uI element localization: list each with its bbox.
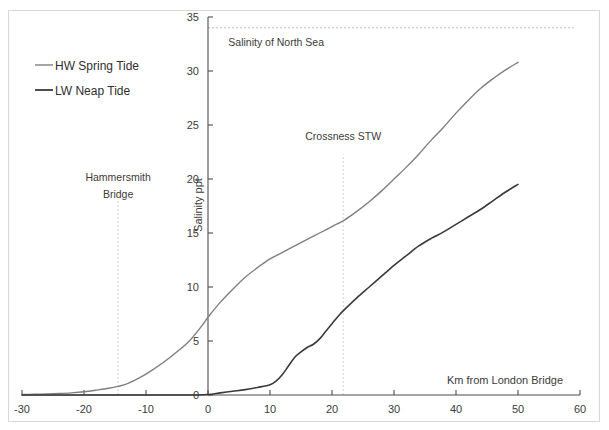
y-tick-label: 10 — [187, 281, 199, 293]
series-layer — [22, 62, 518, 395]
annotation-label-salinity-of-north-sea: Salinity of North Sea — [228, 36, 324, 48]
y-axis-title: Salinity ppt — [192, 178, 204, 232]
annotation-label-hammersmith-bridge-line2: Bridge — [103, 188, 134, 200]
x-tick-label: 10 — [264, 403, 276, 415]
x-tick-label: 60 — [574, 403, 586, 415]
series-line-hw-spring-tide — [22, 62, 518, 394]
x-tick-label: 50 — [512, 403, 524, 415]
reference-lines-layer — [118, 28, 574, 395]
y-tick-label: 30 — [187, 65, 199, 77]
x-tick-label: -10 — [138, 403, 154, 415]
y-tick-label: 25 — [187, 119, 199, 131]
series-line-lw-neap-tide — [22, 184, 518, 395]
legend-label-hw-spring-tide: HW Spring Tide — [55, 59, 139, 73]
x-tick-label: -30 — [14, 403, 30, 415]
x-axis-title: Km from London Bridge — [447, 374, 563, 386]
y-tick-label: 35 — [187, 11, 199, 23]
chart-figure: -30-20-10010203040506005101520253035 Sal… — [0, 0, 609, 430]
annotation-label-hammersmith-bridge-line1: Hammersmith — [85, 171, 150, 183]
x-tick-label: 30 — [388, 403, 400, 415]
x-tick-label: 40 — [450, 403, 462, 415]
x-tick-label: 20 — [326, 403, 338, 415]
x-tick-label: 0 — [205, 403, 211, 415]
legend: HW Spring TideLW Neap Tide — [35, 59, 139, 98]
annotation-label-crossness-stw: Crossness STW — [305, 130, 381, 142]
legend-label-lw-neap-tide: LW Neap Tide — [55, 84, 130, 98]
salinity-line-chart: -30-20-10010203040506005101520253035 Sal… — [0, 0, 609, 430]
x-tick-label: -20 — [76, 403, 92, 415]
